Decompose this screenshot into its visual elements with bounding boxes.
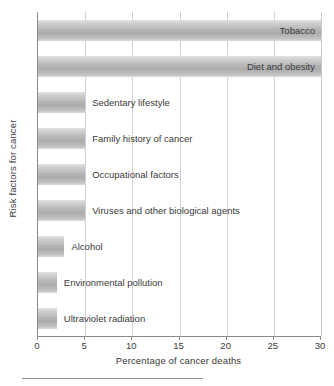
tick-label: 20 [220, 340, 231, 351]
bar [38, 272, 57, 293]
bar: Tobacco [38, 20, 321, 41]
bar-row: Ultraviolet radiation [38, 308, 321, 329]
bar: Diet and obesity [38, 56, 321, 77]
bar-row: Viruses and other biological agents [38, 200, 321, 221]
bar-label: Environmental pollution [64, 277, 163, 288]
bar-series: TobaccoDiet and obesitySedentary lifesty… [38, 12, 321, 336]
bar-label: Viruses and other biological agents [92, 205, 240, 216]
bar [38, 236, 64, 257]
x-axis-title: Percentage of cancer deaths [37, 355, 320, 366]
bar-row: Family history of cancer [38, 128, 321, 149]
tick-label: 0 [34, 340, 39, 351]
bar-row: Tobacco [38, 20, 321, 41]
bar-row: Alcohol [38, 236, 321, 257]
y-axis-title: Risk factors for cancer [0, 0, 26, 336]
bar-label: Ultraviolet radiation [64, 313, 145, 324]
bar [38, 164, 85, 185]
tick-label: 25 [268, 340, 279, 351]
bar-row: Environmental pollution [38, 272, 321, 293]
bar [38, 92, 85, 113]
bar-label: Alcohol [71, 241, 102, 252]
bar-chart-figure: Risk factors for cancer TobaccoDiet and … [0, 0, 334, 386]
tick-label: 10 [126, 340, 137, 351]
y-axis-title-text: Risk factors for cancer [8, 119, 19, 217]
bottom-divider [22, 378, 203, 379]
gridline [321, 12, 322, 336]
tick-label: 15 [173, 340, 184, 351]
tick-label: 5 [82, 340, 87, 351]
bar [38, 200, 85, 221]
bar-label: Diet and obesity [247, 61, 315, 72]
bar-row: Diet and obesity [38, 56, 321, 77]
x-axis-ticks: 051015202530 [37, 337, 320, 351]
plot-area: TobaccoDiet and obesitySedentary lifesty… [37, 12, 321, 337]
bar-label: Sedentary lifestyle [92, 97, 170, 108]
tick-label: 30 [315, 340, 326, 351]
bar-label: Tobacco [280, 25, 315, 36]
bar-label: Occupational factors [92, 169, 179, 180]
bar [38, 308, 57, 329]
bar-label: Family history of cancer [92, 133, 192, 144]
bar-row: Occupational factors [38, 164, 321, 185]
bar [38, 128, 85, 149]
bar-row: Sedentary lifestyle [38, 92, 321, 113]
